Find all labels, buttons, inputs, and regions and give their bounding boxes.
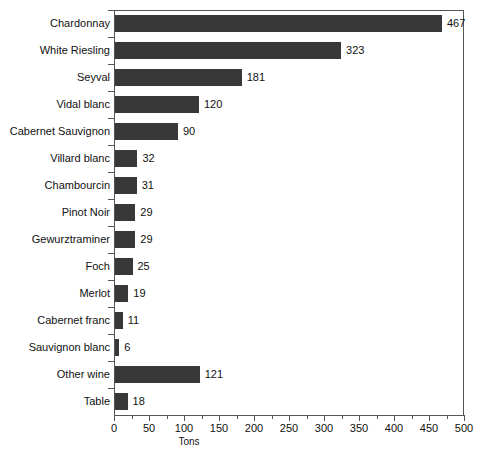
bar-container: 6 — [115, 334, 130, 361]
bar — [115, 42, 341, 59]
x-tick-label: 350 — [350, 423, 368, 434]
bar-row: Merlot19 — [0, 280, 486, 307]
bar-container: 31 — [115, 172, 154, 199]
y-axis-tick — [108, 37, 114, 38]
y-axis-tick — [108, 64, 114, 65]
x-tick-major — [394, 415, 395, 421]
bar — [115, 204, 135, 221]
bar-row: Seyval181 — [0, 64, 486, 91]
bar — [115, 96, 199, 113]
bar-value-label: 90 — [183, 126, 195, 137]
y-axis-tick — [108, 10, 114, 11]
y-axis-tick — [108, 145, 114, 146]
x-tick-minor — [307, 415, 308, 419]
bar-row: Chambourcin31 — [0, 172, 486, 199]
bar — [115, 231, 135, 248]
y-axis-tick — [108, 307, 114, 308]
bar-value-label: 19 — [133, 288, 145, 299]
category-label: Cabernet franc — [0, 315, 110, 326]
x-tick-label: 50 — [143, 423, 155, 434]
x-tick-minor — [412, 415, 413, 419]
bar-value-label: 29 — [140, 234, 152, 245]
bar-value-label: 11 — [128, 315, 139, 326]
bar-container: 29 — [115, 226, 153, 253]
x-tick-minor — [447, 415, 448, 419]
y-axis-tick — [108, 91, 114, 92]
bar-row: Vidal blanc120 — [0, 91, 486, 118]
category-label: Sauvignon blanc — [0, 342, 110, 353]
category-label: Villard blanc — [0, 153, 110, 164]
bar — [115, 177, 137, 194]
bar — [115, 285, 128, 302]
x-tick-minor — [272, 415, 273, 419]
bar-container: 19 — [115, 280, 146, 307]
x-tick-minor — [377, 415, 378, 419]
bar-value-label: 29 — [140, 207, 152, 218]
bar-value-label: 467 — [447, 18, 465, 29]
x-tick-minor — [132, 415, 133, 419]
x-tick-label: 150 — [210, 423, 228, 434]
bar — [115, 258, 133, 275]
bar-row: White Riesling323 — [0, 37, 486, 64]
x-tick-label: 450 — [420, 423, 438, 434]
bar-row: Table18 — [0, 388, 486, 415]
category-label: White Riesling — [0, 45, 110, 56]
x-tick-major — [429, 415, 430, 421]
bar-value-label: 121 — [205, 369, 223, 380]
bar-container: 11 — [115, 307, 139, 334]
bar — [115, 339, 119, 356]
x-tick-minor — [237, 415, 238, 419]
bar — [115, 366, 200, 383]
x-tick-major — [149, 415, 150, 421]
bar-value-label: 25 — [138, 261, 150, 272]
bar-row: Villard blanc32 — [0, 145, 486, 172]
category-label: Table — [0, 396, 110, 407]
y-axis-tick — [108, 280, 114, 281]
bar-row: Sauvignon blanc6 — [0, 334, 486, 361]
y-axis-tick — [108, 118, 114, 119]
bar-container: 25 — [115, 253, 150, 280]
x-tick-major — [289, 415, 290, 421]
bar-value-label: 120 — [204, 99, 222, 110]
bar-container: 121 — [115, 361, 223, 388]
bar-container: 323 — [115, 37, 364, 64]
x-tick-label: 400 — [385, 423, 403, 434]
x-tick-major — [324, 415, 325, 421]
bar-row: Other wine121 — [0, 361, 486, 388]
category-label: Chardonnay — [0, 18, 110, 29]
x-axis-title-text: Tons — [178, 436, 199, 447]
bar-container: 18 — [115, 388, 145, 415]
category-label: Other wine — [0, 369, 110, 380]
y-axis-tick — [108, 388, 114, 389]
x-tick-major — [464, 415, 465, 421]
bar — [115, 312, 123, 329]
bar-value-label: 32 — [142, 153, 154, 164]
y-axis-tick — [108, 226, 114, 227]
bar — [115, 150, 137, 167]
x-tick-minor — [167, 415, 168, 419]
x-tick-minor — [202, 415, 203, 419]
y-axis-tick — [108, 172, 114, 173]
x-tick-major — [184, 415, 185, 421]
bar-container: 29 — [115, 199, 153, 226]
bar — [115, 393, 128, 410]
bar-container: 120 — [115, 91, 222, 118]
bar-value-label: 18 — [133, 396, 145, 407]
bar — [115, 15, 442, 32]
x-tick-label: 250 — [280, 423, 298, 434]
x-tick-minor — [342, 415, 343, 419]
y-axis-tick — [108, 361, 114, 362]
y-axis-tick — [108, 199, 114, 200]
bar-rows: Chardonnay467White Riesling323Seyval181V… — [0, 10, 486, 415]
bar-row: Chardonnay467 — [0, 10, 486, 37]
x-tick-major — [114, 415, 115, 421]
bar — [115, 69, 242, 86]
category-label: Pinot Noir — [0, 207, 110, 218]
bar-container: 32 — [115, 145, 155, 172]
x-axis-title: Tons — [0, 437, 486, 447]
x-tick-label: 500 — [455, 423, 473, 434]
bar — [115, 123, 178, 140]
x-tick-major — [254, 415, 255, 421]
bar-value-label: 6 — [124, 342, 130, 353]
category-label: Seyval — [0, 72, 110, 83]
